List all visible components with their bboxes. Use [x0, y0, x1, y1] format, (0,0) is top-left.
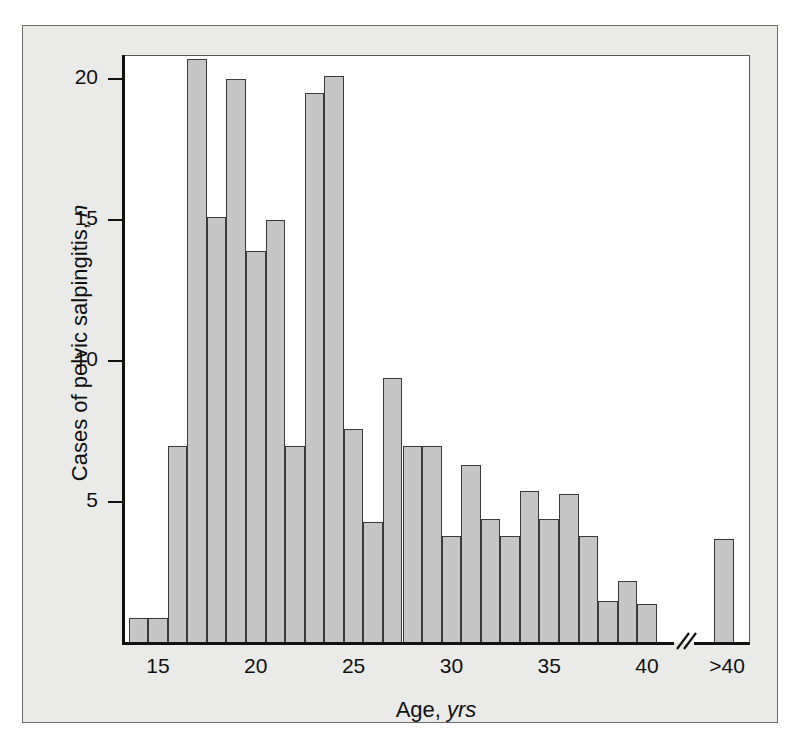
x-axis-title: Age, yrs [122, 697, 750, 723]
histogram-bar [324, 76, 344, 643]
histogram-bar [129, 618, 149, 643]
histogram-bar [285, 446, 305, 643]
histogram-bar [266, 220, 286, 643]
y-tick-15 [108, 219, 122, 221]
histogram-bar [344, 429, 364, 643]
x-tick-label-40: 40 [612, 654, 682, 678]
y-tick-5 [108, 501, 122, 503]
histogram-bar [168, 446, 188, 643]
histogram-bar [442, 536, 462, 643]
x-tick-label-15: 15 [123, 654, 193, 678]
histogram-bar [207, 217, 227, 643]
histogram-bar [461, 465, 481, 643]
y-axis-title-italic: n [67, 205, 92, 217]
plot-frame-right-edge [749, 55, 750, 645]
x-tick-label-gt40: >40 [692, 654, 762, 678]
histogram-bar [637, 604, 657, 643]
axis-break-icon [673, 628, 699, 654]
plot-area: 5101520 152025303540>40 Cases of pelvic … [0, 0, 791, 747]
y-axis-title-text: Cases of pelvic salpingitis, [67, 223, 92, 481]
x-tick-label-20: 20 [221, 654, 291, 678]
histogram-bar [422, 446, 442, 643]
histogram-bar [383, 378, 403, 643]
histogram-bar [246, 251, 266, 643]
y-axis-spine [122, 55, 125, 645]
y-tick-label-20: 20 [38, 65, 98, 89]
y-tick-20 [108, 78, 122, 80]
histogram-bar [539, 519, 559, 643]
histogram-bar [714, 539, 734, 643]
plot-frame-top-edge [122, 55, 750, 56]
histogram-figure: 5101520 152025303540>40 Cases of pelvic … [0, 0, 791, 747]
histogram-bar [363, 522, 383, 643]
histogram-bar [520, 491, 540, 643]
histogram-bar [481, 519, 501, 643]
histogram-bar [403, 446, 423, 643]
x-axis-spine-main [122, 642, 674, 645]
histogram-bar [226, 79, 246, 643]
x-axis-title-italic: yrs [447, 697, 476, 722]
y-tick-10 [108, 360, 122, 362]
x-tick-label-25: 25 [319, 654, 389, 678]
histogram-bar [148, 618, 168, 643]
x-axis-spine-tail [694, 642, 750, 645]
x-axis-title-text: Age, [396, 697, 441, 722]
histogram-bar [579, 536, 599, 643]
x-tick-label-35: 35 [514, 654, 584, 678]
histogram-bar [305, 93, 325, 643]
histogram-bar [618, 581, 638, 643]
x-tick-label-30: 30 [416, 654, 486, 678]
y-axis-title: Cases of pelvic salpingitis, n [67, 113, 93, 573]
histogram-bar [187, 59, 207, 643]
histogram-bar [598, 601, 618, 643]
histogram-bar [559, 494, 579, 643]
histogram-bar [500, 536, 520, 643]
